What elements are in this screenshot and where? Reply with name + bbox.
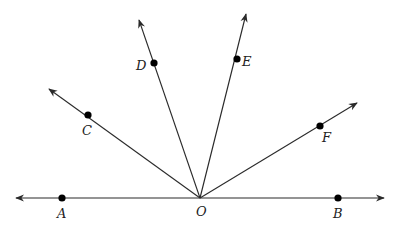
point-F [316,122,323,129]
label-E: E [241,54,252,69]
label-O: O [196,204,207,219]
rays-layer [16,14,384,198]
ray-OD [139,20,200,198]
label-A: A [56,206,66,221]
ray-OE [200,14,246,198]
ray-OF [200,103,357,198]
label-B: B [332,206,343,221]
point-D [150,59,157,66]
point-E [233,55,240,62]
label-F: F [321,130,332,145]
point-C [84,111,91,118]
points-layer [58,55,341,201]
point-A [58,194,65,201]
ray-OC [49,89,200,198]
label-C: C [82,123,92,138]
label-D: D [135,58,147,73]
point-B [334,194,341,201]
geometry-diagram: ABCDEFO [0,0,394,228]
